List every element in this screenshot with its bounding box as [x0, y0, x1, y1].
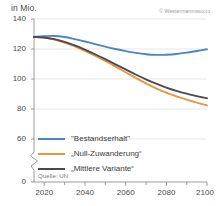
- legend-color-swatch-mittlere-variante: [38, 168, 65, 170]
- x-tick-marks: [44, 182, 207, 186]
- x-axis-label-2100: 2100: [188, 188, 216, 197]
- x-axis-label-2040: 2040: [68, 188, 102, 197]
- y-axis-label-100: 100: [4, 74, 26, 83]
- x-axis-label-2080: 2080: [150, 188, 184, 197]
- series-line-null-zuwanderung: [34, 37, 207, 105]
- x-axis-label-2020: 2020: [27, 188, 61, 197]
- series-line-bestandserhalt: [34, 36, 207, 55]
- legend-item-null-zuwanderung[interactable]: „Null-Zuwanderung“: [38, 146, 142, 161]
- series-lines: [34, 36, 207, 106]
- source-label: Quelle: UN: [38, 172, 68, 179]
- x-axis-label-2060: 2060: [109, 188, 143, 197]
- legend-label-bestandserhalt: "Bestandserhalt": [71, 134, 130, 143]
- legend-label-null-zuwanderung: „Null-Zuwanderung“: [71, 149, 142, 158]
- population-projection-chart: in Mio. © Westermann3860013: [0, 0, 216, 206]
- legend-color-swatch-null-zuwanderung: [38, 153, 65, 155]
- y-axis-label-80: 80: [4, 104, 26, 113]
- y-axis-break-icon: [31, 152, 38, 170]
- legend-color-swatch-bestandserhalt: [38, 138, 65, 140]
- y-axis-label-60: 60: [4, 134, 26, 143]
- y-axis-label-120: 120: [4, 44, 26, 53]
- legend-item-bestandserhalt[interactable]: "Bestandserhalt": [38, 131, 142, 146]
- chart-legend: "Bestandserhalt" „Null-Zuwanderung“ „Mit…: [38, 131, 142, 176]
- legend-label-mittlere-variante: „Mittlere Variante“: [71, 164, 134, 173]
- y-axis-label-0: 0: [4, 177, 26, 186]
- y-axis-label-140: 140: [4, 14, 26, 23]
- series-line-mittlere-variante: [34, 37, 207, 98]
